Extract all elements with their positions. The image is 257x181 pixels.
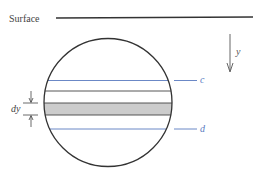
differential-strip — [40, 103, 180, 115]
line-c-label: c — [200, 74, 205, 85]
circular-plate — [44, 39, 172, 167]
dy-dimension — [23, 91, 38, 127]
surface-line — [56, 17, 253, 18]
line-d-label: d — [200, 123, 206, 134]
dy-label: dy — [11, 103, 21, 114]
depth-arrow-icon — [227, 34, 233, 72]
surface-label: Surface — [9, 13, 40, 24]
submerged-circle-diagram: Surface y c d dy — [0, 0, 257, 181]
depth-label: y — [235, 46, 241, 57]
